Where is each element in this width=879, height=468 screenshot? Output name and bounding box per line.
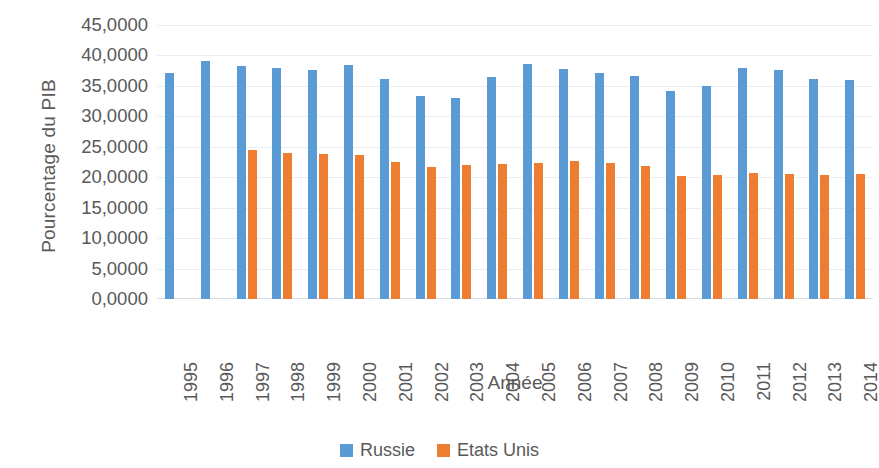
bar[interactable] bbox=[630, 76, 639, 299]
y-axis-tick-label: 0,0000 bbox=[44, 290, 148, 309]
legend-item[interactable]: Etats Unis bbox=[437, 440, 539, 461]
bar[interactable] bbox=[641, 166, 650, 299]
bar[interactable] bbox=[201, 61, 210, 299]
y-axis-tick-label: 45,0000 bbox=[44, 16, 148, 35]
bar[interactable] bbox=[380, 79, 389, 299]
bar[interactable] bbox=[427, 167, 436, 299]
y-axis-tick-label: 10,0000 bbox=[44, 229, 148, 248]
bar[interactable] bbox=[820, 175, 829, 299]
y-axis-tick-label: 25,0000 bbox=[44, 138, 148, 157]
legend-label: Russie bbox=[360, 440, 415, 461]
bar[interactable] bbox=[595, 73, 604, 299]
bar[interactable] bbox=[713, 175, 722, 299]
bar[interactable] bbox=[416, 96, 425, 299]
bar[interactable] bbox=[165, 73, 174, 299]
bar-group bbox=[801, 25, 837, 299]
y-axis-tick-label: 35,0000 bbox=[44, 77, 148, 96]
bar-group bbox=[336, 25, 372, 299]
bar[interactable] bbox=[523, 64, 532, 299]
y-axis-tick-label: 5,0000 bbox=[44, 260, 148, 279]
bar[interactable] bbox=[462, 165, 471, 299]
bar[interactable] bbox=[498, 164, 507, 299]
bar-group bbox=[837, 25, 873, 299]
bar[interactable] bbox=[487, 77, 496, 299]
legend-swatch-icon bbox=[340, 444, 353, 457]
x-axis-title: Année bbox=[157, 372, 873, 394]
bar[interactable] bbox=[677, 176, 686, 299]
bar-group bbox=[157, 25, 193, 299]
bar-group bbox=[658, 25, 694, 299]
y-axis-tick-label: 20,0000 bbox=[44, 168, 148, 187]
plot-area bbox=[157, 25, 873, 299]
bar[interactable] bbox=[606, 163, 615, 299]
y-axis-tick-labels: 45,000040,000035,000030,000025,000020,00… bbox=[44, 0, 148, 320]
legend-swatch-icon bbox=[437, 444, 450, 457]
bar[interactable] bbox=[451, 98, 460, 299]
bar-group bbox=[622, 25, 658, 299]
chart-legend: RussieEtats Unis bbox=[0, 440, 879, 461]
bar[interactable] bbox=[856, 174, 865, 299]
bar[interactable] bbox=[785, 174, 794, 299]
bar-group bbox=[229, 25, 265, 299]
y-axis-tick-label: 15,0000 bbox=[44, 199, 148, 218]
bar-group bbox=[694, 25, 730, 299]
bar-group bbox=[515, 25, 551, 299]
bar[interactable] bbox=[355, 155, 364, 299]
bar-group bbox=[193, 25, 229, 299]
bar-group bbox=[264, 25, 300, 299]
bar[interactable] bbox=[774, 70, 783, 299]
bar[interactable] bbox=[272, 68, 281, 299]
bar[interactable] bbox=[248, 150, 257, 299]
bar[interactable] bbox=[738, 68, 747, 299]
bar[interactable] bbox=[308, 70, 317, 299]
bar-group bbox=[730, 25, 766, 299]
x-axis-tick-labels: 1995199619971998199920002001200220032004… bbox=[157, 302, 873, 364]
bar[interactable] bbox=[666, 91, 675, 299]
bar[interactable] bbox=[702, 86, 711, 299]
bar-group bbox=[443, 25, 479, 299]
bar-group bbox=[551, 25, 587, 299]
bar[interactable] bbox=[344, 65, 353, 299]
bar-group bbox=[479, 25, 515, 299]
bar[interactable] bbox=[534, 163, 543, 299]
legend-label: Etats Unis bbox=[457, 440, 539, 461]
bar[interactable] bbox=[283, 153, 292, 299]
bar[interactable] bbox=[559, 69, 568, 299]
bar[interactable] bbox=[809, 79, 818, 299]
bar-group bbox=[587, 25, 623, 299]
bar[interactable] bbox=[570, 161, 579, 299]
bar[interactable] bbox=[845, 80, 854, 299]
y-axis-tick-label: 40,0000 bbox=[44, 46, 148, 65]
bar[interactable] bbox=[391, 162, 400, 299]
bar-group bbox=[372, 25, 408, 299]
y-axis-tick-label: 30,0000 bbox=[44, 107, 148, 126]
bar[interactable] bbox=[749, 173, 758, 299]
bar[interactable] bbox=[319, 154, 328, 299]
bar-group bbox=[408, 25, 444, 299]
bar-chart: Pourcentage du PIB 45,000040,000035,0000… bbox=[0, 0, 879, 468]
legend-item[interactable]: Russie bbox=[340, 440, 415, 461]
bar[interactable] bbox=[237, 66, 246, 299]
bar-group bbox=[766, 25, 802, 299]
bar-group bbox=[300, 25, 336, 299]
